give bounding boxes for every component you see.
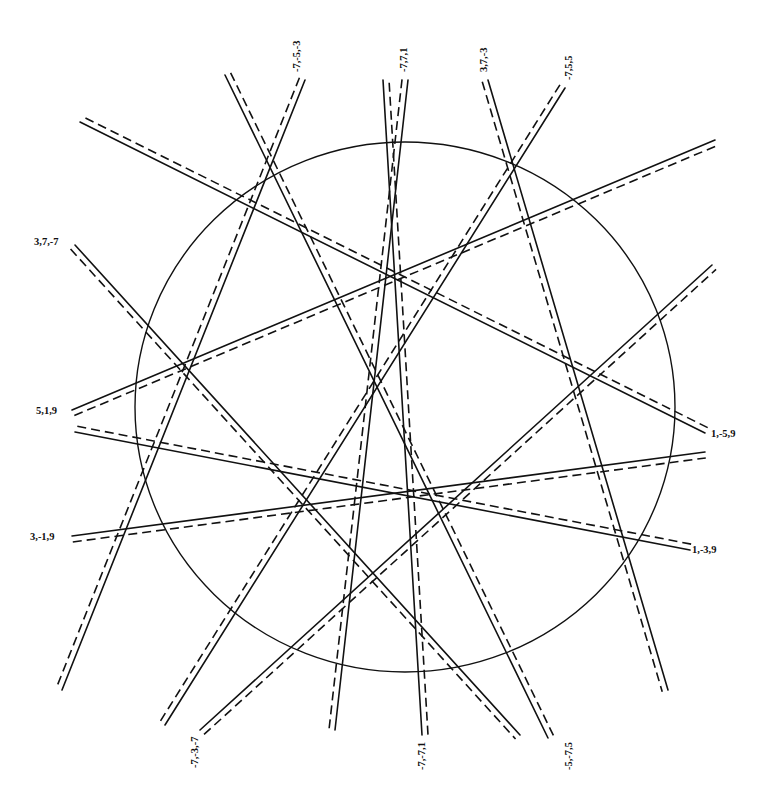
line-label: -7,7,1	[398, 48, 409, 73]
line-pair	[329, 79, 408, 730]
line-label: -7,-3,-7	[189, 737, 200, 769]
line-label: 3,-1,9	[30, 531, 55, 542]
line-label: -7,-5,-3	[291, 41, 302, 73]
projection-circle	[135, 142, 675, 672]
dashed-line	[56, 78, 299, 688]
solid-line	[165, 88, 565, 725]
solid-line	[72, 140, 715, 410]
line-pairs	[56, 72, 717, 739]
solid-line	[335, 80, 408, 730]
line-label: 1,-3,9	[692, 544, 717, 555]
line-label: -7,-7,1	[416, 742, 427, 770]
line-pair	[200, 265, 716, 734]
dashed-line	[73, 458, 706, 542]
line-label: -5,-7,5	[563, 742, 574, 770]
dashed-line	[204, 269, 716, 734]
dashed-line	[71, 249, 516, 739]
line-label: 3,7,-3	[478, 48, 489, 73]
solid-line	[62, 80, 305, 690]
line-pair	[56, 78, 305, 690]
dashed-line	[76, 426, 691, 544]
line-pair	[75, 426, 691, 550]
stereographic-diagram: -7,-5,-3-5,-7,5-7,7,1-7,-7,13,7,-3-7,5,5…	[0, 0, 774, 811]
solid-line	[200, 265, 712, 730]
line-pair	[383, 80, 428, 735]
solid-line	[383, 80, 422, 735]
line-label: -7,5,5	[563, 56, 574, 81]
line-label: 5,1,9	[36, 405, 57, 416]
line-label: 1,-5,9	[711, 428, 736, 439]
dashed-line	[160, 85, 560, 722]
line-label: 3,7,-7	[34, 236, 59, 247]
